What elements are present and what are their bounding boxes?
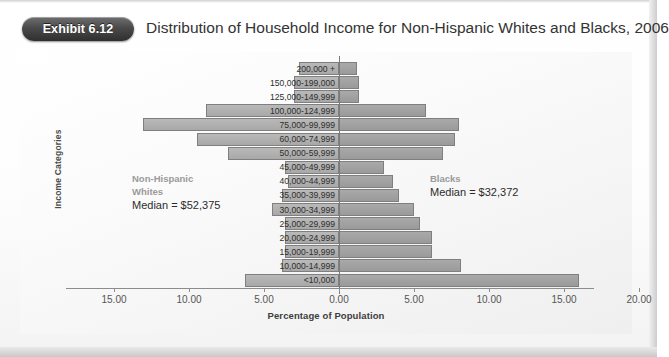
bar-blacks[interactable] bbox=[339, 231, 432, 244]
bar-blacks[interactable] bbox=[339, 90, 359, 103]
x-tick-mark bbox=[489, 288, 490, 292]
bar-blacks[interactable] bbox=[339, 217, 420, 230]
annotation-right-group-line1: Blacks bbox=[430, 172, 461, 185]
bar-row: 20,000-24,999 bbox=[20, 231, 632, 244]
bar-non-hispanic-whites[interactable] bbox=[285, 161, 339, 174]
bar-row: 30,000-34,999 bbox=[20, 203, 632, 216]
annotation-left-median: Median = $52,375 bbox=[132, 199, 220, 211]
frame-top-edge bbox=[0, 0, 657, 3]
x-tick-label: 5.00 bbox=[234, 294, 294, 305]
x-axis-line bbox=[66, 288, 594, 289]
bar-row: 50,000-59,999 bbox=[20, 147, 632, 160]
bar-row: 200,000 + bbox=[20, 62, 632, 75]
bar-row: 40,000-44,999 bbox=[20, 175, 632, 188]
bar-blacks[interactable] bbox=[339, 175, 393, 188]
bar-row: 15,000-19,999 bbox=[20, 245, 632, 258]
bar-non-hispanic-whites[interactable] bbox=[285, 231, 339, 244]
exhibit-badge-label: Exhibit 6.12 bbox=[43, 22, 114, 36]
x-tick-label: 15.00 bbox=[534, 294, 594, 305]
exhibit-badge: Exhibit 6.12 bbox=[22, 17, 134, 41]
bar-blacks[interactable] bbox=[339, 133, 455, 146]
bar-row: 45,000-49,999 bbox=[20, 161, 632, 174]
page-title: Distribution of Household Income for Non… bbox=[146, 19, 646, 37]
x-tick-mark bbox=[114, 288, 115, 292]
x-tick-label: 15.00 bbox=[84, 294, 144, 305]
annotation-left-group-line1: Non-Hispanic bbox=[132, 172, 193, 185]
plot-area: Income Categories 200,000 +150,000-199,0… bbox=[20, 52, 632, 334]
x-tick-label: 10.00 bbox=[159, 294, 219, 305]
x-tick-mark bbox=[189, 288, 190, 292]
bar-row: 25,000-29,999 bbox=[20, 217, 632, 230]
bar-blacks[interactable] bbox=[339, 62, 357, 75]
x-tick-label: 0.00 bbox=[309, 294, 369, 305]
bar-row: 60,000-74,999 bbox=[20, 133, 632, 146]
x-tick-label: 5.00 bbox=[384, 294, 444, 305]
bar-non-hispanic-whites[interactable] bbox=[143, 118, 340, 131]
bar-non-hispanic-whites[interactable] bbox=[299, 62, 340, 75]
bar-blacks[interactable] bbox=[339, 274, 579, 287]
x-tick-label: 20.00 bbox=[609, 294, 669, 305]
bar-non-hispanic-whites[interactable] bbox=[228, 147, 339, 160]
bar-row: <10,000 bbox=[20, 274, 632, 287]
bar-non-hispanic-whites[interactable] bbox=[282, 189, 339, 202]
x-tick-mark bbox=[564, 288, 565, 292]
bar-blacks[interactable] bbox=[339, 203, 414, 216]
bar-non-hispanic-whites[interactable] bbox=[285, 245, 339, 258]
bar-blacks[interactable] bbox=[339, 147, 443, 160]
bar-non-hispanic-whites[interactable] bbox=[294, 76, 339, 89]
x-tick-mark bbox=[639, 288, 640, 292]
annotation-right-median: Median = $32,372 bbox=[430, 186, 518, 198]
bar-non-hispanic-whites[interactable] bbox=[245, 274, 340, 287]
x-tick-label: 10.00 bbox=[459, 294, 519, 305]
x-tick-mark bbox=[339, 288, 340, 292]
zero-axis-line bbox=[339, 56, 340, 294]
bar-blacks[interactable] bbox=[339, 245, 432, 258]
x-tick-mark bbox=[414, 288, 415, 292]
bar-non-hispanic-whites[interactable] bbox=[294, 90, 339, 103]
x-tick-mark bbox=[264, 288, 265, 292]
bar-non-hispanic-whites[interactable] bbox=[282, 259, 339, 272]
annotation-left-group-line2: Whites bbox=[132, 185, 193, 198]
bar-blacks[interactable] bbox=[339, 118, 459, 131]
bar-non-hispanic-whites[interactable] bbox=[197, 133, 340, 146]
frame-bottom-edge bbox=[0, 347, 657, 357]
bar-row: 150,000-199,000 bbox=[20, 76, 632, 89]
bar-blacks[interactable] bbox=[339, 189, 399, 202]
x-axis-title: Percentage of Population bbox=[20, 310, 632, 321]
annotation-left-group: Non-Hispanic Whites bbox=[132, 172, 193, 198]
bar-blacks[interactable] bbox=[339, 259, 461, 272]
annotation-right-group: Blacks bbox=[430, 172, 461, 185]
bar-blacks[interactable] bbox=[339, 76, 359, 89]
bar-blacks[interactable] bbox=[339, 161, 384, 174]
bar-blacks[interactable] bbox=[339, 104, 426, 117]
bar-row: 10,000-14,999 bbox=[20, 259, 632, 272]
bar-non-hispanic-whites[interactable] bbox=[206, 104, 340, 117]
bar-non-hispanic-whites[interactable] bbox=[285, 217, 339, 230]
bar-row: 125,000-149,999 bbox=[20, 90, 632, 103]
plot-panel: Income Categories 200,000 +150,000-199,0… bbox=[20, 52, 632, 334]
bar-non-hispanic-whites[interactable] bbox=[288, 175, 339, 188]
bar-row: 35,000-39,999 bbox=[20, 189, 632, 202]
bar-row: 100,000-124,999 bbox=[20, 104, 632, 117]
bar-non-hispanic-whites[interactable] bbox=[272, 203, 340, 216]
bar-row: 75,000-99,999 bbox=[20, 118, 632, 131]
